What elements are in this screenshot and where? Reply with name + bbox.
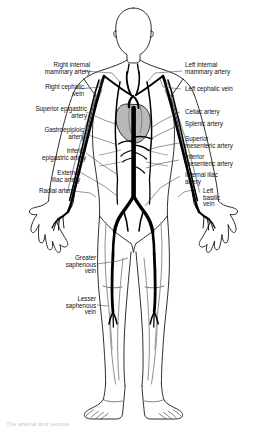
label-external-iliac-artery: External iliac artery (12, 170, 80, 183)
label-left-basilic-vein: Left basilic vein (203, 188, 249, 208)
figure-caption: The arterial and venous (6, 421, 69, 427)
label-internal-iliac-artery: Internal iliac artery (185, 172, 259, 185)
label-splenic-artery: Splenic artery (185, 121, 263, 128)
label-celiac-artery: Celiac artery (185, 109, 263, 116)
label-lesser-saphenous-vein: Lesser saphenous vein (48, 296, 96, 316)
label-superior-mesenteric-artery: Superior mesenteric artery (185, 136, 265, 149)
major-vessel-network (52, 64, 215, 327)
label-greater-saphenous-vein: Greater saphenous vein (48, 255, 96, 275)
label-gastroepiploic-artery: Gastroepiploic artery (12, 127, 84, 140)
label-left-cephalic-vein: Left cephalic vein (185, 86, 265, 93)
label-radial-artery: Radial artery (8, 188, 74, 195)
anatomy-figure: Right internal mammary artery Right ceph… (0, 0, 267, 430)
label-inferior-mesenteric-artery: Inferior mesenteric artery (185, 154, 265, 167)
label-right-internal-mammary-artery: Right internal mammary artery (12, 62, 90, 75)
label-superior-epigastric-artery: Superior epigastric artery (4, 106, 87, 119)
label-left-internal-mammary-artery: Left internal mammary artery (185, 62, 265, 75)
label-right-cephalic-vein: Right cephalic vein (12, 84, 84, 97)
label-inferior-epigastric-artery: Inferior epigastric artery (4, 148, 86, 161)
